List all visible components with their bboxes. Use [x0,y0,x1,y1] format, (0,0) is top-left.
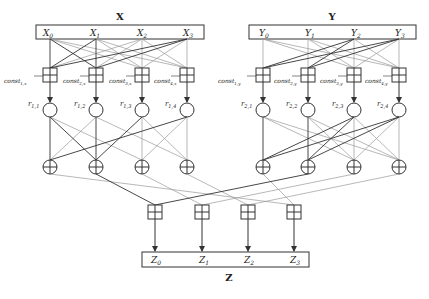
y-input-connections [263,39,399,68]
x-xor-nodes [43,160,194,174]
svg-text:const3,x: const3,x [109,77,132,86]
y-xor-nodes [256,160,406,174]
y-block-title: Y [327,11,336,22]
output-square-2 [195,205,209,219]
z-block-title: Z [225,272,232,283]
svg-text:const2,y: const2,y [274,77,297,86]
x-const-square-2 [89,68,103,82]
y-input-box [249,25,416,39]
svg-text:const4,y: const4,y [365,77,388,86]
svg-text:r2,2: r2,2 [286,100,297,109]
y-const-square-1 [256,68,270,82]
output-square-4 [287,205,301,219]
svg-text:const4,x: const4,x [154,77,177,86]
z-output-box [142,252,309,267]
y-const-square-2 [301,68,315,82]
x-round-to-xor-connections [50,117,187,160]
x-const-square-4 [180,68,194,82]
svg-text:r1,1: r1,1 [28,100,39,109]
x-const-square-1 [43,68,57,82]
round-labels: r1,1 r1,2 r1,3 r1,4 r2,1 r2,2 r2,3 r2,4 [28,100,388,109]
const-to-round-arrows [50,82,399,102]
svg-text:r2,3: r2,3 [332,100,343,109]
svg-text:r1,2: r1,2 [74,100,85,109]
y-round-to-xor-connections [263,117,399,160]
svg-text:r1,3: r1,3 [120,100,131,109]
output-arrows [155,219,294,251]
x-const-square-3 [135,68,149,82]
output-adders [148,205,301,219]
svg-text:const2,x: const2,x [63,77,86,86]
svg-text:r2,1: r2,1 [241,100,252,109]
output-square-3 [241,205,255,219]
svg-text:const3,y: const3,y [320,77,343,86]
svg-text:r2,4: r2,4 [377,100,388,109]
xor-to-output-connections [50,174,399,205]
x-block-title: X [116,11,124,22]
y-const-square-4 [392,68,406,82]
output-square-1 [148,205,162,219]
diagram-canvas: X X0 X1 X2 X3 Y Y0 Y1 Y2 Y3 [0,0,429,299]
y-const-square-3 [347,68,361,82]
svg-text:const1,x: const1,x [4,77,27,86]
x-input-box [36,25,204,39]
x-input-connections [50,39,187,68]
svg-text:r1,4: r1,4 [165,100,176,109]
svg-text:const1,y: const1,y [218,77,241,86]
